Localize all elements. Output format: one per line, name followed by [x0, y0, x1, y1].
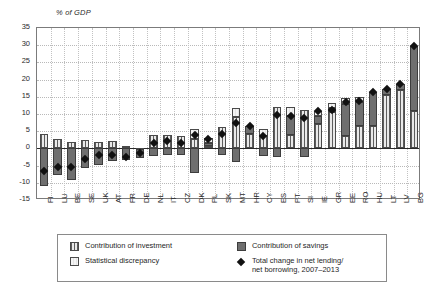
pinstripe-square-icon: [70, 242, 79, 251]
bar-segment-savings: [410, 46, 419, 111]
bar-segment-savings: [314, 116, 323, 125]
y-axis-tick-label: 35: [2, 22, 30, 31]
black-diamond-icon: [237, 257, 246, 266]
x-axis-tick-label: LV: [402, 194, 411, 203]
x-axis-tick-label: LU: [60, 193, 69, 203]
x-axis-tick-label: EE: [348, 193, 357, 203]
bar-group[interactable]: [245, 28, 254, 198]
x-axis-tick-label: IE: [320, 196, 329, 203]
legend-row: Statistical discrepancy Total change in …: [70, 256, 386, 274]
bar-segment-investment: [286, 135, 295, 149]
y-axis-tick-label: 10: [2, 108, 30, 117]
bar-group[interactable]: [177, 28, 186, 198]
plot-inner: [37, 28, 419, 198]
bar-group[interactable]: [67, 28, 76, 198]
legend-item-savings: Contribution of savings: [237, 241, 386, 251]
bar-segment-investment: [40, 134, 49, 148]
y-axis-tick-label: -10: [2, 177, 30, 186]
bar-segment-savings: [355, 102, 364, 126]
bar-group[interactable]: [136, 28, 145, 198]
x-axis-tick-label: NL: [156, 193, 165, 203]
bar-group[interactable]: [259, 28, 268, 198]
x-axis-tick-label: HR: [252, 192, 261, 203]
bar-group[interactable]: [81, 28, 90, 198]
x-axis-tick-label: LT: [389, 195, 398, 203]
x-axis-tick-label: DE: [142, 193, 151, 203]
y-axis-tick-label: -5: [2, 160, 30, 169]
y-axis-tick-label: -15: [2, 194, 30, 203]
y-axis-tick-label: 0: [2, 142, 30, 151]
bar-group[interactable]: [369, 28, 378, 198]
x-axis-tick-label: SE: [87, 193, 96, 203]
bar-group[interactable]: [410, 28, 419, 198]
bar-segment-savings: [369, 92, 378, 126]
bar-segment-investment: [81, 140, 90, 149]
legend-item-total: Total change in net lending/net borrowin…: [237, 256, 386, 274]
x-axis-tick-label: DK: [197, 193, 206, 203]
bar-segment-investment: [328, 112, 337, 148]
bar-segment-investment: [204, 146, 213, 148]
bar-group[interactable]: [149, 28, 158, 198]
bar-segment-investment: [67, 142, 76, 149]
bar-segment-investment: [245, 134, 254, 149]
bar-segment-savings: [149, 148, 158, 155]
bar-group[interactable]: [355, 28, 364, 198]
bar-group[interactable]: [232, 28, 241, 198]
legend-row: Contribution of investment Contribution …: [70, 241, 386, 251]
x-axis-tick-label: UK: [101, 193, 110, 203]
x-axis-tick-label: SI: [306, 196, 315, 203]
bar-segment-investment: [396, 90, 405, 148]
solid-grey-square-icon: [237, 242, 246, 251]
legend-label-investment: Contribution of investment: [85, 241, 172, 250]
bar-segment-savings: [204, 143, 213, 147]
bar-segment-savings: [259, 148, 268, 155]
bar-segment-investment: [190, 139, 199, 148]
legend-item-investment: Contribution of investment: [70, 241, 237, 251]
x-axis-tick-label: SK: [224, 193, 233, 203]
y-axis-tick-label: 30: [2, 39, 30, 48]
bar-segment-savings: [190, 148, 199, 173]
bar-segment-savings: [273, 148, 282, 156]
bar-group[interactable]: [341, 28, 350, 198]
bar-group[interactable]: [190, 28, 199, 198]
bar-segment-investment: [53, 139, 62, 148]
legend-item-discrepancy: Statistical discrepancy: [70, 256, 237, 266]
chart-legend: Contribution of investment Contribution …: [57, 234, 387, 282]
bar-segment-savings: [300, 148, 309, 156]
bar-group[interactable]: [396, 28, 405, 198]
x-axis-tick-label: PL: [210, 194, 219, 203]
bar-group[interactable]: [108, 28, 117, 198]
bar-segment-discrepancy: [232, 108, 241, 117]
x-axis-tick-label: RO: [361, 192, 370, 203]
bar-segment-investment: [355, 126, 364, 149]
x-axis-tick-label: MT: [238, 192, 247, 203]
bar-segment-investment: [382, 95, 391, 149]
x-axis-tick-label: FR: [128, 193, 137, 203]
y-axis-tick-label: 20: [2, 74, 30, 83]
y-axis-tick-label: 5: [2, 125, 30, 134]
x-axis-tick-label: BG: [416, 192, 425, 203]
bar-segment-investment: [410, 111, 419, 149]
bar-group[interactable]: [300, 28, 309, 198]
chart-figure: % of GDP 35302520151050-5-10-15 FILUBESE…: [0, 0, 432, 291]
bar-group[interactable]: [53, 28, 62, 198]
bars-layer: [37, 28, 419, 198]
y-axis-tick-label: 25: [2, 56, 30, 65]
plot-area: [36, 27, 420, 199]
x-axis-tick-label: FI: [46, 196, 55, 203]
bar-group[interactable]: [218, 28, 227, 198]
bar-group[interactable]: [163, 28, 172, 198]
bar-group[interactable]: [94, 28, 103, 198]
bar-segment-savings: [232, 148, 241, 161]
x-axis-tick-label: CZ: [183, 193, 192, 203]
x-axis-tick-label: CY: [265, 193, 274, 203]
bar-group[interactable]: [204, 28, 213, 198]
bar-group[interactable]: [122, 28, 131, 198]
x-axis-tick-label: AT: [114, 194, 123, 203]
bar-segment-investment: [314, 124, 323, 148]
bar-group[interactable]: [382, 28, 391, 198]
x-axis-tick-label: BE: [73, 193, 82, 203]
bar-segment-investment: [369, 126, 378, 148]
bar-segment-savings: [341, 104, 350, 136]
bar-segment-savings: [177, 148, 186, 155]
